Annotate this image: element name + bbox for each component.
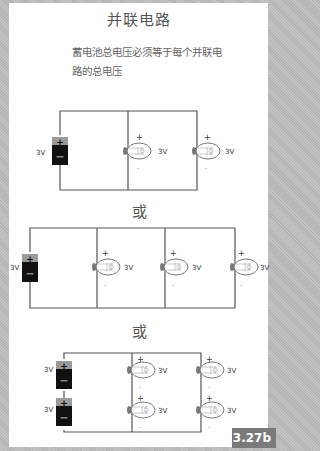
circuit-1: 3V + - 3V + - 3V [36,111,234,190]
bulb-icon [230,259,258,275]
svg-text:+: + [206,394,213,403]
svg-text:3V: 3V [158,367,167,375]
svg-text:+: + [204,133,211,142]
svg-text:-: - [172,281,174,288]
svg-text:-: - [205,164,207,171]
svg-text:+: + [206,355,213,364]
svg-text:3V: 3V [227,407,236,415]
bulb-icon [127,402,155,418]
bulb-voltage-label: 3V [158,148,167,156]
svg-text:+: + [238,249,245,258]
battery-icon [22,254,38,283]
battery-voltage-label: 3V [36,149,45,157]
bulb-voltage-label: 3V [225,148,234,156]
bulb-icon [192,143,220,159]
battery-icon [56,361,72,390]
bulb-icon [160,259,188,275]
bulb-icon [123,143,151,159]
svg-text:-: - [208,423,210,430]
bulb-icon [196,362,224,378]
svg-text:-: - [139,383,141,390]
svg-text:-: - [137,164,139,171]
svg-text:3V: 3V [227,367,236,375]
svg-text:3V: 3V [44,366,53,374]
svg-text:3V: 3V [158,407,167,415]
battery-icon [52,137,68,166]
bulb-icon [127,362,155,378]
circuit-2: 3V + - 3V + - 3V + - 3V [10,228,269,308]
svg-text:+: + [136,133,143,142]
bulb-icon [92,259,120,275]
svg-text:+: + [170,249,177,258]
bulb-icon [196,402,224,418]
svg-text:-: - [240,281,242,288]
svg-text:+: + [137,394,144,403]
circuit-3: 3V 3V + - 3V + - 3V + - 3V + - 3V [44,353,236,432]
figure-number-badge: 3.27b [232,428,276,448]
svg-text:-: - [139,423,141,430]
svg-text:+: + [102,249,109,258]
circuit-diagrams: + 3V + - 3V + - 3V 3V + - 3V + [0,0,278,451]
svg-text:3V: 3V [124,264,133,272]
battery-icon [56,398,72,427]
svg-text:-: - [104,281,106,288]
svg-text:3V: 3V [260,264,269,272]
svg-text:3V: 3V [192,264,201,272]
svg-text:3V: 3V [44,406,53,414]
svg-text:3V: 3V [10,264,19,272]
svg-text:-: - [208,383,210,390]
svg-text:+: + [137,355,144,364]
